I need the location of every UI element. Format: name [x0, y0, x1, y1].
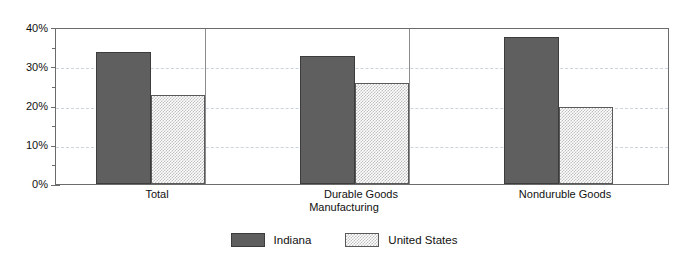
x-axis-category-durable-goods: Durable Goods: [259, 188, 463, 201]
category-separator-1: [205, 29, 206, 184]
bar-indiana-durable-goods: [300, 56, 355, 184]
legend-swatch-indiana: [231, 233, 265, 247]
legend-label-united-states: United States: [388, 234, 457, 246]
y-axis-label-40: 40%: [0, 23, 48, 34]
bar-united-states-total: [151, 95, 205, 184]
bar-chart-figure: Manufacturing 40% 30% 20% 10% 0%: [0, 0, 688, 270]
category-separator-2: [409, 29, 410, 184]
y-axis-label-20: 20%: [0, 101, 48, 112]
bar-united-states-durable-goods: [355, 83, 409, 184]
y-axis-label-10: 10%: [0, 140, 48, 151]
x-axis-category-total: Total: [55, 188, 259, 201]
bar-united-states-nondurable-goods: [559, 107, 613, 185]
legend-label-indiana: Indiana: [274, 234, 312, 246]
legend-item-united-states: United States: [345, 233, 457, 247]
x-axis-title: Manufacturing: [0, 201, 688, 213]
y-tick-0: [51, 185, 60, 186]
legend-item-indiana: Indiana: [231, 233, 312, 247]
plot-area: [55, 28, 669, 185]
chart-legend: Indiana United States: [0, 233, 688, 247]
legend-swatch-united-states: [345, 233, 379, 247]
bar-indiana-total: [96, 52, 151, 184]
x-axis-category-nondurable-goods: Nonduruble Goods: [463, 188, 667, 201]
bar-indiana-nondurable-goods: [504, 37, 559, 184]
y-axis-label-0: 0%: [0, 179, 48, 190]
y-axis-label-30: 30%: [0, 62, 48, 73]
